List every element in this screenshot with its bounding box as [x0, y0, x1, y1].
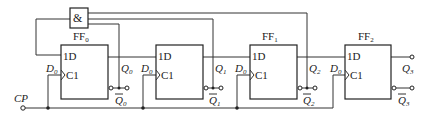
- svg-text:Q0: Q0: [115, 94, 127, 108]
- svg-text:D0: D0: [140, 62, 153, 76]
- svg-text:FF0: FF0: [73, 30, 89, 44]
- flipflop-0: FF0 1D C1 D0 Q0 Q0: [45, 30, 133, 108]
- svg-text:D0: D0: [329, 62, 342, 76]
- svg-text:Q3: Q3: [398, 94, 410, 108]
- and-gate-label: &: [73, 11, 83, 25]
- svg-text:Q2: Q2: [303, 94, 315, 108]
- svg-text:C1: C1: [161, 69, 174, 81]
- flipflop-2: FF1 1D C1 D0 Q2 Q2: [234, 30, 321, 108]
- counter-circuit-diagram: & CP FF0 1D C1 D0 Q0 Q0: [0, 0, 429, 122]
- svg-text:Q0: Q0: [121, 62, 133, 76]
- svg-text:C1: C1: [255, 69, 268, 81]
- cp-label: CP: [14, 92, 28, 104]
- svg-text:D0: D0: [45, 62, 58, 76]
- svg-text:FF2: FF2: [358, 30, 374, 44]
- svg-text:D0: D0: [234, 62, 247, 76]
- flipflop-3: FF2 1D C1 D0 Q3 Q3: [329, 30, 414, 108]
- svg-text:FF1: FF1: [262, 30, 278, 44]
- and-gate: &: [70, 8, 88, 28]
- svg-text:Q1: Q1: [215, 62, 226, 76]
- svg-text:C1: C1: [66, 69, 79, 81]
- svg-text:Q3: Q3: [402, 62, 414, 76]
- svg-text:1D: 1D: [252, 50, 266, 62]
- svg-text:Q2: Q2: [309, 62, 321, 76]
- svg-text:1D: 1D: [158, 50, 172, 62]
- svg-text:C1: C1: [350, 69, 363, 81]
- svg-text:1D: 1D: [63, 50, 77, 62]
- svg-text:Q1: Q1: [209, 94, 220, 108]
- svg-text:1D: 1D: [347, 50, 361, 62]
- cp-terminal: [21, 106, 25, 110]
